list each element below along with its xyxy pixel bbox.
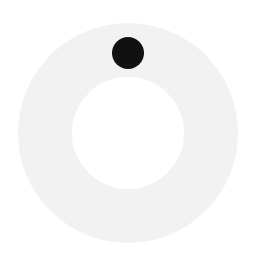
spinner-indicator-dot-icon [112,37,144,69]
spinner-state-label: loading [0,0,1,1]
loading-spinner: loading [0,0,256,264]
